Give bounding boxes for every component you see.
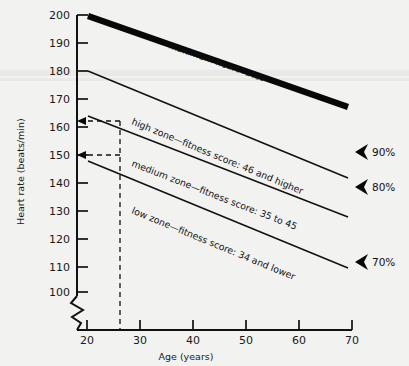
series-maximum-heart-rates: maximum heart rates xyxy=(88,16,348,107)
y-tick-label-150: 150 xyxy=(49,149,70,162)
y-tick-label-110: 110 xyxy=(49,261,70,274)
x-tick-label-60: 60 xyxy=(292,334,306,347)
x-tick-label-50: 50 xyxy=(239,334,253,347)
series-low-zone: low zone—fitness score: 34 and lower 70% xyxy=(88,161,395,282)
x-axis: 20 30 40 50 60 70 Age (years) xyxy=(77,320,359,362)
y-tick-label-180: 180 xyxy=(49,65,70,78)
low-zone-percent-label: 70% xyxy=(372,256,395,268)
medium-zone-arrow-icon xyxy=(355,179,368,195)
x-tick-label-30: 30 xyxy=(133,334,147,347)
y-tick-label-200: 200 xyxy=(49,9,70,22)
reference-arrow-150-icon xyxy=(77,151,86,159)
y-tick-label-160: 160 xyxy=(49,121,70,134)
maximum-heart-rate-label: maximum heart rates xyxy=(167,40,266,84)
x-tick-label-70: 70 xyxy=(345,334,359,347)
y-axis-title: Heart rate (beats/min) xyxy=(15,118,26,225)
heart-rate-training-zones-chart: 200 190 180 170 160 150 140 130 120 110 … xyxy=(0,0,409,366)
y-tick-label-190: 190 xyxy=(49,37,70,50)
reference-arrow-162-icon xyxy=(77,117,86,125)
reference-lines-group xyxy=(77,117,120,330)
x-tick-label-40: 40 xyxy=(186,334,200,347)
high-zone-label: high zone—fitness score: 46 and higher xyxy=(130,116,305,197)
y-axis-break-zigzag xyxy=(71,296,83,330)
low-zone-line xyxy=(88,161,348,268)
high-zone-percent-label: 90% xyxy=(372,146,395,158)
y-axis: 200 190 180 170 160 150 140 130 120 110 … xyxy=(15,9,88,330)
scan-band-top-2 xyxy=(0,78,409,81)
y-tick-label-140: 140 xyxy=(49,177,70,190)
medium-zone-percent-label: 80% xyxy=(372,181,395,193)
high-zone-arrow-icon xyxy=(355,144,368,160)
y-tick-label-130: 130 xyxy=(49,205,70,218)
low-zone-arrow-icon xyxy=(355,254,368,270)
y-tick-label-170: 170 xyxy=(49,93,70,106)
x-tick-label-20: 20 xyxy=(80,334,94,347)
y-tick-label-120: 120 xyxy=(49,233,70,246)
y-tick-label-100: 100 xyxy=(49,286,70,299)
x-axis-title: Age (years) xyxy=(159,351,214,362)
